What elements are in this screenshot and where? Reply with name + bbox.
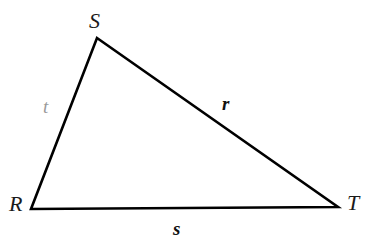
geometry-figure: S R T t r s <box>0 0 374 246</box>
vertex-label-r: R <box>9 193 22 215</box>
triangle-outline <box>31 38 338 209</box>
side-label-r: r <box>222 94 229 113</box>
vertex-label-s: S <box>89 10 100 32</box>
vertex-label-t: T <box>347 192 359 214</box>
triangle-shape <box>0 0 374 246</box>
side-label-t: t <box>43 97 48 116</box>
side-label-s: s <box>173 219 180 238</box>
